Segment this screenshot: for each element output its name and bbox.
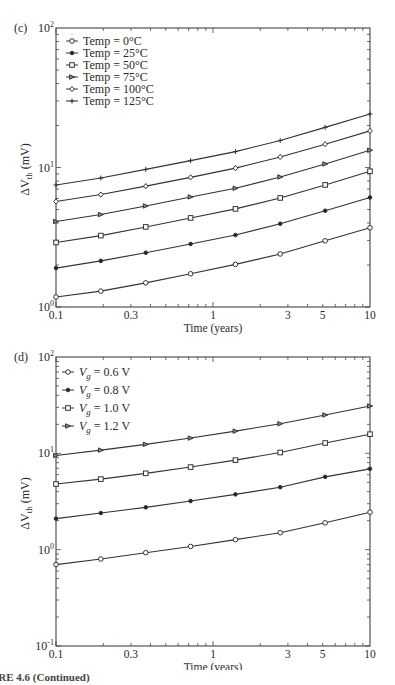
data-point-open-circle-icon [66,370,71,375]
data-point-open-square-icon [368,169,373,174]
data-point-open-circle-icon [99,557,104,562]
legend: Vg = 0.6 VVg = 0.8 VVg = 1.0 VVg = 1.2 V [62,365,130,435]
data-point-open-diamond-icon [278,154,283,159]
data-point-triangle-icon [188,195,193,199]
data-point-triangle-icon [368,148,373,152]
data-point-filled-dot-icon [99,259,103,263]
data-point-triangle-icon [233,429,238,433]
series-5 [54,111,373,187]
legend-item: Vg = 1.2 V [62,419,130,435]
data-point-filled-dot-icon [189,499,193,503]
data-point-filled-dot-icon [66,388,70,392]
data-point-triangle-icon [188,436,193,440]
legend-label: Vg = 1.0 V [79,401,130,417]
series-1 [54,467,372,520]
data-point-open-square-icon [66,406,71,411]
data-point-open-circle-icon [323,239,328,244]
figure-caption: IRE 4.6 (Continued) [0,671,90,683]
data-point-filled-dot-icon [54,517,58,521]
x-tick-label: 10 [364,309,376,321]
data-point-open-square-icon [323,441,328,446]
data-point-open-diamond-icon [323,142,328,147]
x-tick-label: 5 [320,309,326,321]
data-point-triangle-icon [143,442,148,446]
data-point-open-diamond-icon [233,166,238,171]
data-point-filled-dot-icon [144,506,148,510]
chart-panel-c: 0.10.313510100101102Time (years)ΔVth (mV… [0,0,395,345]
data-point-open-circle-icon [143,550,148,555]
legend-item: Vg = 0.8 V [62,383,130,399]
y-tick-label: 101 [38,160,54,175]
data-point-filled-dot-icon [234,493,238,497]
data-point-open-diamond-icon [99,192,104,197]
series-1 [54,196,372,270]
y-axis-label: ΔVth (mV) [18,477,34,529]
x-tick-label: 5 [320,648,326,660]
data-point-plus-icon [188,158,193,163]
legend-label: Vg = 0.8 V [79,383,130,399]
panel-label: (c) [14,21,27,35]
data-point-triangle-icon [70,75,75,79]
data-point-open-circle-icon [54,562,59,567]
data-point-open-circle-icon [188,271,193,276]
y-tick-label: 102 [38,20,54,35]
x-tick-label: 0.3 [124,309,139,321]
axes: 0.10.31351010-1100101102Time (years)ΔVth… [14,349,376,670]
data-point-open-square-icon [99,233,104,238]
data-point-open-diamond-icon [368,128,373,133]
data-point-triangle-icon [54,453,59,457]
data-point-open-square-icon [70,63,75,68]
data-point-open-square-icon [233,207,238,212]
data-point-open-circle-icon [278,530,283,535]
data-point-open-circle-icon [233,262,238,267]
data-point-open-circle-icon [188,544,193,549]
data-point-open-square-icon [323,183,328,188]
legend-label: Temp = 125°C [83,94,154,108]
data-point-triangle-icon [98,212,103,216]
data-point-open-circle-icon [143,281,148,286]
data-point-open-square-icon [233,458,238,463]
x-tick-label: 10 [364,648,376,660]
series-0 [54,510,373,567]
data-point-open-circle-icon [323,521,328,526]
data-point-open-square-icon [143,471,148,476]
data-point-open-square-icon [368,432,373,437]
data-point-triangle-icon [233,186,238,190]
data-point-plus-icon [143,167,148,172]
y-tick-label: 100 [38,542,54,557]
data-point-triangle-icon [323,413,328,417]
figure: 0.10.313510100101102Time (years)ΔVth (mV… [0,0,395,685]
data-point-filled-dot-icon [70,51,74,55]
data-point-open-circle-icon [368,225,373,230]
x-tick-label: 0.3 [124,648,139,660]
data-point-triangle-icon [278,175,283,179]
data-point-open-circle-icon [70,39,75,44]
y-tick-label: 102 [38,349,54,364]
data-point-plus-icon [233,149,238,154]
data-point-open-circle-icon [99,289,104,294]
data-point-filled-dot-icon [323,475,327,479]
data-point-triangle-icon [368,404,373,408]
data-point-plus-icon [70,99,75,104]
series-line [56,512,370,564]
data-point-open-circle-icon [54,295,59,300]
legend: Temp = 0°CTemp = 25°CTemp = 50°CTemp = 7… [66,34,154,108]
data-point-plus-icon [98,176,103,181]
legend-label: Vg = 0.6 V [79,365,130,381]
data-point-open-circle-icon [233,537,238,542]
data-point-plus-icon [368,111,373,116]
x-tick-label: 0.1 [49,648,64,660]
data-point-triangle-icon [98,448,103,452]
data-point-open-diamond-icon [143,184,148,189]
legend-item: Temp = 125°C [66,94,154,108]
series-line [56,114,370,185]
data-point-filled-dot-icon [99,511,103,515]
data-point-plus-icon [323,125,328,130]
data-point-open-square-icon [278,196,283,201]
panel-label: (d) [14,350,28,364]
y-tick-label: 101 [38,445,54,460]
x-tick-label: 3 [285,309,291,321]
x-tick-label: 1 [210,648,216,660]
x-tick-label: 3 [285,648,291,660]
data-point-open-square-icon [188,216,193,221]
